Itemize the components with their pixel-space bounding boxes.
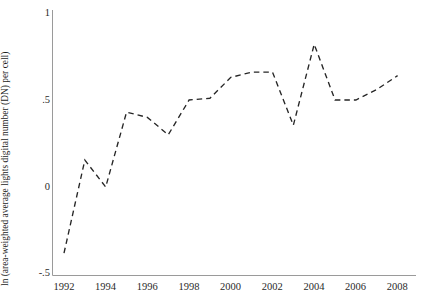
line-chart: ln (area-weighted average lights digital… bbox=[0, 0, 424, 306]
x-tick-label: 2000 bbox=[209, 281, 253, 292]
x-tick-label: 1998 bbox=[167, 281, 211, 292]
x-axis-tick-labels: 1992 1994 1996 1998 2000 2002 2004 2006 … bbox=[0, 281, 424, 301]
x-tick-label: 1994 bbox=[84, 281, 128, 292]
data-series-line bbox=[64, 44, 398, 253]
x-tick-label: 2008 bbox=[375, 281, 419, 292]
x-tick-label: 2006 bbox=[334, 281, 378, 292]
x-tick-label: 1992 bbox=[42, 281, 86, 292]
x-tick-label: 1996 bbox=[125, 281, 169, 292]
x-tick-label: 2004 bbox=[292, 281, 336, 292]
plot-area bbox=[0, 0, 424, 306]
x-tick-label: 2002 bbox=[250, 281, 294, 292]
